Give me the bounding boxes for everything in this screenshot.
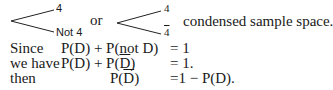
eq3-rhs: =1 − P(D). — [170, 70, 235, 87]
tree2-upper-branch — [117, 11, 161, 23]
eq2-lhs-prefix: P(D) + P( — [61, 55, 119, 71]
tree2-lower-label-bar: 4 — [164, 26, 170, 38]
eq2-d-bar: D — [119, 55, 130, 71]
caption: condensed sample space. — [183, 13, 333, 30]
eq3-lhs-prefix: P( — [110, 70, 123, 86]
tree2-upper-label: 4 — [164, 2, 170, 14]
tree1-upper-branch — [11, 10, 54, 21]
eq3-lhs-suffix: ) — [134, 70, 139, 86]
tree1-lower-label: Not 4 — [56, 26, 82, 38]
or-connector: or — [90, 12, 103, 29]
eq3-lead: then — [10, 70, 36, 87]
tree1-lower-branch — [11, 21, 54, 32]
eq3-lhs: P(D) — [110, 70, 139, 87]
eq3-d-bar: D — [123, 70, 134, 86]
eq2-lhs-suffix: ) — [130, 55, 135, 71]
tree1-upper-label: 4 — [56, 2, 62, 14]
tree2-lower-branch — [117, 23, 161, 34]
